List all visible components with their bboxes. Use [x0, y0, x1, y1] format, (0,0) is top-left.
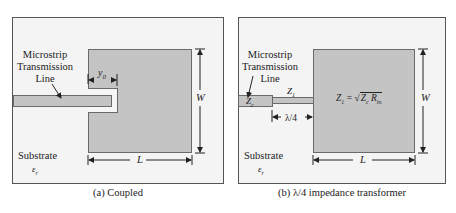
- dimension-arrows: [0, 0, 456, 213]
